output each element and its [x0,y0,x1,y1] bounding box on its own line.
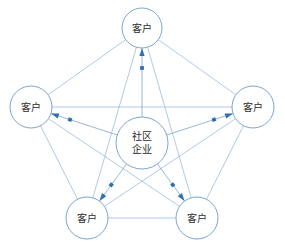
flow-arrowhead [51,113,59,118]
flow-shaft [51,113,117,134]
center-node-community-enterprise[interactable]: 社区企业 [116,117,168,169]
customer-node-bottom-left[interactable]: 客户 [66,197,108,239]
node-layer: 客户客户客户客户客户社区企业 [10,8,274,239]
center-node-label-line2: 企业 [132,143,153,155]
flow-center-to-bottom-left [99,164,126,201]
network-diagram: 客户客户客户客户客户社区企业 [0,0,285,249]
flow-center-to-right [167,113,233,135]
peer-link-top-to-left [48,40,126,95]
center-node-label-line1: 社区 [132,130,153,142]
flow-center-to-bottom-right [157,164,184,201]
flow-arrowhead [139,48,144,56]
flow-arrowhead [178,193,185,201]
customer-node-bottom-right[interactable]: 客户 [176,197,218,239]
peer-link-top-to-right [158,40,236,95]
customer-node-label: 客户 [132,22,153,34]
customer-node-top[interactable]: 客户 [122,8,162,48]
flow-arrowhead [99,193,106,201]
peer-link-right-to-bottom-right [206,126,243,200]
customer-node-label: 客户 [187,212,208,224]
customer-node-label: 客户 [243,101,264,113]
peer-link-left-to-bottom-left [40,126,77,200]
flow-marker-dot [140,66,144,70]
diagram-canvas: 客户客户客户客户客户社区企业 [0,0,285,249]
customer-node-right[interactable]: 客户 [232,86,274,128]
customer-node-label: 客户 [21,101,42,113]
customer-node-label: 客户 [77,212,98,224]
flow-marker-dot [212,117,217,122]
customer-node-left[interactable]: 客户 [10,86,52,128]
flow-shaft [167,113,233,134]
flow-marker-dot [68,117,73,122]
flow-arrowhead [225,113,233,118]
flow-center-to-left [51,113,117,135]
node-circle [116,117,168,169]
